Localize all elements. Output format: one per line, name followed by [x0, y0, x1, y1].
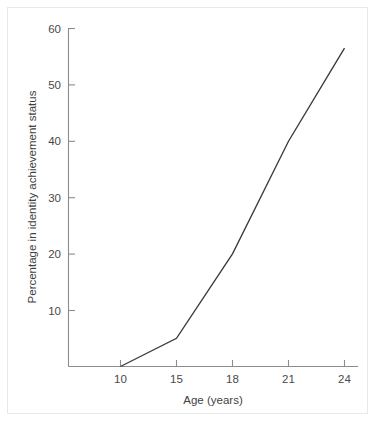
y-tick-label-50: 50 [48, 79, 61, 91]
x-tick-label-21: 21 [282, 373, 295, 385]
data-series-line [121, 48, 345, 366]
line-chart-svg: 60 50 40 30 20 10 10 15 18 21 24 Age [0, 0, 377, 423]
plot-area: 60 50 40 30 20 10 10 15 18 21 24 Age [0, 0, 377, 423]
x-tick-label-10: 10 [114, 373, 127, 385]
y-tick-label-40: 40 [48, 135, 61, 147]
x-axis-title: Age (years) [183, 394, 243, 406]
chart-figure: 60 50 40 30 20 10 10 15 18 21 24 Age [0, 0, 377, 423]
y-tick-marks [69, 29, 76, 311]
x-tick-label-24: 24 [338, 373, 351, 385]
y-tick-label-20: 20 [48, 248, 61, 260]
x-tick-marks [121, 360, 345, 367]
y-tick-label-30: 30 [48, 192, 61, 204]
y-tick-label-10: 10 [48, 305, 61, 317]
x-tick-label-15: 15 [170, 373, 183, 385]
y-axis-title: Percentage in identity achievement statu… [26, 90, 38, 303]
y-tick-label-60: 60 [48, 23, 61, 35]
x-tick-label-18: 18 [226, 373, 239, 385]
